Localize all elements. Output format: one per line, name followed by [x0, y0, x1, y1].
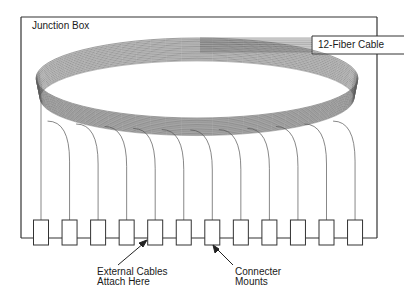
- fiber-drop: [105, 126, 127, 220]
- connector-box: [319, 220, 334, 245]
- cable-label: 12-Fiber Cable: [318, 40, 384, 50]
- fiber-drop: [305, 124, 327, 220]
- fiber-drop: [48, 121, 70, 220]
- fiber-drop: [190, 130, 212, 220]
- connector-mounts: [34, 220, 363, 245]
- fiber-drop: [333, 121, 355, 220]
- connector-mounts-arrow: [216, 248, 233, 265]
- connector-box: [290, 220, 305, 245]
- connector-box: [34, 220, 49, 245]
- external-cables-label: External Cables Attach Here: [97, 267, 168, 287]
- fiber-drop: [162, 130, 184, 220]
- fiber-drop: [133, 128, 155, 220]
- connector-box: [91, 220, 106, 245]
- connector-box: [176, 220, 191, 245]
- fiber-drop: [247, 128, 269, 220]
- fiber-drop: [76, 124, 98, 220]
- connector-box: [119, 220, 134, 245]
- connector-mounts-label: Connecter Mounts: [235, 267, 281, 287]
- connector-mounts-label-line2: Mounts: [235, 277, 281, 287]
- fiber-drop: [276, 126, 298, 220]
- junction-box-title: Junction Box: [32, 21, 89, 31]
- connector-box: [205, 220, 220, 245]
- connector-box: [262, 220, 277, 245]
- fiber-drop: [219, 130, 241, 220]
- connector-box: [348, 220, 363, 245]
- fiber-ring: [36, 38, 358, 136]
- connector-box: [148, 220, 163, 245]
- connector-box: [62, 220, 77, 245]
- connector-box: [233, 220, 248, 245]
- external-cables-label-line2: Attach Here: [97, 277, 168, 287]
- connector-mounts-arrowhead-icon: [213, 245, 219, 253]
- external-cables-arrow: [118, 243, 144, 265]
